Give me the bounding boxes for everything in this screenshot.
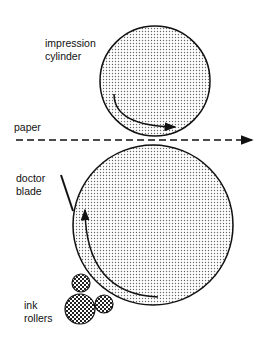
label-line: ink bbox=[24, 299, 53, 312]
ink-roller-right bbox=[95, 295, 113, 313]
impression-cylinder-label: impression cylinder bbox=[45, 37, 96, 63]
label-line: cylinder bbox=[45, 50, 96, 63]
ink-rollers-label: ink rollers bbox=[24, 299, 53, 325]
ink-roller-top bbox=[72, 274, 90, 292]
paper-label: paper bbox=[14, 121, 41, 134]
doctor-blade-label: doctor blade bbox=[16, 172, 45, 198]
label-line: blade bbox=[16, 185, 45, 198]
label-line: doctor bbox=[16, 172, 45, 185]
doctor-blade bbox=[61, 175, 73, 211]
ink-roller-large bbox=[65, 294, 95, 324]
label-line: impression bbox=[45, 37, 96, 50]
label-line: rollers bbox=[24, 312, 53, 325]
impression-cylinder bbox=[100, 26, 210, 136]
gravure-diagram bbox=[0, 0, 268, 341]
gravure-cylinder bbox=[73, 145, 233, 305]
